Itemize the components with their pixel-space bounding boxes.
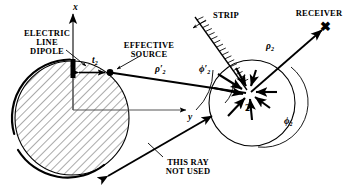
scatter-point-label: 2 bbox=[245, 102, 250, 113]
rho2-prime-label: ρ′2 bbox=[155, 64, 166, 75]
phi2-subscript: 2 bbox=[290, 121, 293, 127]
scatter-region-circle bbox=[209, 60, 295, 146]
star-arrow-se bbox=[255, 97, 270, 108]
phi2-prime-inner-arc bbox=[225, 83, 233, 103]
angle-arcs bbox=[196, 67, 308, 147]
phi2-prime-symbol: ϕ′ bbox=[199, 64, 207, 74]
phi2-prime-subscript: 2 bbox=[207, 69, 210, 75]
y-axis-label: y bbox=[188, 112, 192, 122]
electric-line-dipole-bar bbox=[71, 59, 76, 78]
t2-label: t2 bbox=[92, 55, 98, 66]
cylinder-hatch-fill bbox=[15, 61, 129, 175]
figure-canvas: ELECTRIC LINE DIPOLE EFFECTIVE SOURCE ST… bbox=[0, 0, 355, 193]
star-arrow-sw bbox=[228, 98, 245, 116]
star-arrow-nw bbox=[218, 74, 242, 89]
phi2-prime-label: ϕ′2 bbox=[199, 64, 210, 75]
receiver-marker-icon: ✖ bbox=[320, 19, 331, 34]
strip bbox=[195, 17, 248, 90]
t2-subscript: 2 bbox=[95, 60, 98, 66]
big-cylinder bbox=[12, 60, 129, 178]
receiver-label: RECEIVER bbox=[288, 9, 350, 18]
effective-source-label: EFFECTIVE SOURCE bbox=[112, 41, 186, 59]
rho2-prime-subscript: 2 bbox=[163, 69, 166, 75]
strip-label: STRIP bbox=[206, 11, 246, 20]
rho2-label: ρ2 bbox=[266, 41, 274, 52]
star-arrow-ne bbox=[251, 70, 256, 86]
rho2-prime-symbol: ρ′ bbox=[155, 64, 163, 74]
star-arrow-s bbox=[250, 99, 252, 120]
rho2-subscript: 2 bbox=[271, 46, 274, 52]
x-axis-label: x bbox=[73, 2, 78, 12]
this-ray-not-used-label: THIS RAY NOT USED bbox=[155, 158, 221, 176]
phi2-label: ϕ2 bbox=[284, 116, 292, 127]
electric-line-dipole-label: ELECTRIC LINE DIPOLE bbox=[5, 29, 89, 56]
